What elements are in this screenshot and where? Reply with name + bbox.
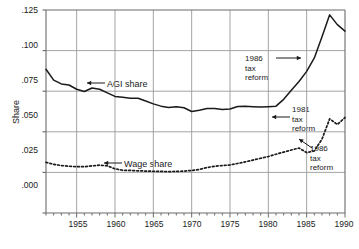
series-line-wage-share xyxy=(46,118,345,172)
annotation-1981-agi-arrow-head xyxy=(272,115,276,119)
axis-ticks xyxy=(43,10,346,218)
annotation-1986-agi-arrow-head xyxy=(297,56,301,60)
chart-figure: Share .125 .100 .075 .050 .025 .000 1955… xyxy=(0,0,359,249)
agi-share-leader-arrow-head xyxy=(87,81,91,85)
plot-area xyxy=(0,0,359,249)
data-series-layer xyxy=(46,15,345,172)
series-line-agi-share xyxy=(46,15,345,112)
annotation-1986-wage-arrow-head xyxy=(299,139,304,143)
wage-share-leader-arrow-head xyxy=(104,161,108,165)
